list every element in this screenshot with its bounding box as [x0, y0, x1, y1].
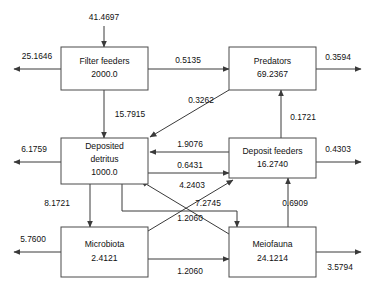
- flow-label-output-microbiota: 5.7600: [20, 234, 46, 244]
- flow-label-input-filter-feeders: 41.4697: [89, 12, 120, 22]
- node-label-predators: Predators: [254, 56, 291, 66]
- flow-label-microbiota-to-depositfeeders: 1.2060: [177, 213, 203, 223]
- ecological-flow-diagram: Filter feeders 2000.0 Predators 69.2367 …: [0, 0, 373, 287]
- node-label-deposited-detritus-line1: Deposited: [85, 141, 124, 151]
- flow-label-depositfeeders-to-detritus: 1.9076: [177, 139, 203, 149]
- flow-label-output-predators: 0.3594: [325, 52, 351, 62]
- flow-label-detritus-to-meiofauna: 7.2745: [195, 198, 221, 208]
- flow-label-output-filter-feeders: 25.1646: [22, 51, 53, 61]
- node-box-microbiota[interactable]: [61, 227, 148, 277]
- node-box-deposit-feeders[interactable]: [229, 138, 316, 178]
- flow-label-meiofauna-to-depositfeeders: 0.6909: [282, 198, 308, 208]
- node-label-microbiota: Microbiota: [85, 239, 125, 249]
- node-box-meiofauna[interactable]: [229, 227, 316, 277]
- flow-label-output-deposit-feeders: 0.4303: [325, 144, 351, 154]
- flow-label-depositfeeders-to-predators: 0.1721: [290, 112, 316, 122]
- flow-network-canvas: Filter feeders 2000.0 Predators 69.2367 …: [0, 0, 373, 287]
- flow-label-detritus-to-depositfeeders: 0.6431: [177, 160, 203, 170]
- node-label-filter-feeders: Filter feeders: [79, 56, 129, 66]
- node-value-deposit-feeders: 16.2740: [257, 159, 288, 169]
- flow-label-microbiota-to-meiofauna: 1.2060: [177, 266, 203, 276]
- flow-label-filter-to-predators: 0.5135: [175, 55, 201, 65]
- flow-label-detritus-to-microbiota: 8.1721: [44, 198, 70, 208]
- node-value-filter-feeders: 2000.0: [91, 69, 118, 79]
- flow-label-meiofauna-to-detritus: 4.2403: [179, 180, 205, 190]
- node-label-deposited-detritus-line2: detritus: [90, 154, 118, 164]
- node-value-predators: 69.2367: [257, 69, 288, 79]
- flow-label-predators-to-detritus: 0.3262: [188, 95, 214, 105]
- node-label-deposit-feeders: Deposit feeders: [242, 146, 302, 156]
- flow-label-filter-to-detritus: 15.7915: [115, 109, 146, 119]
- node-label-meiofauna: Meiofauna: [252, 239, 292, 249]
- node-value-deposited-detritus: 1000.0: [91, 167, 118, 177]
- flow-label-output-meiofauna: 3.5794: [327, 262, 353, 272]
- node-value-microbiota: 2.4121: [91, 253, 118, 263]
- flow-label-output-detritus: 6.1759: [21, 144, 47, 154]
- node-value-meiofauna: 24.1214: [257, 253, 288, 263]
